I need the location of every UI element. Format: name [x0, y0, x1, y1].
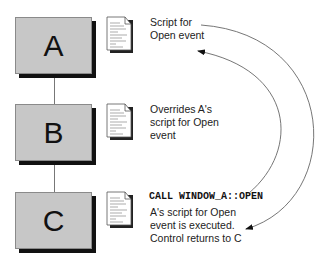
diagram-canvas: A B C [0, 0, 327, 264]
return-control-arrow [201, 25, 314, 229]
call-ancestor-arrow [198, 51, 281, 193]
flow-arrows [0, 0, 327, 264]
